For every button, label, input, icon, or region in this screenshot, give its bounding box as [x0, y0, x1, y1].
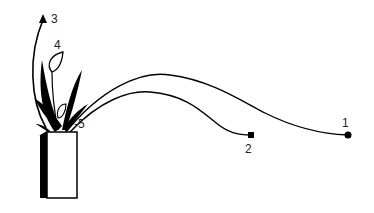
endpoint-2-marker	[248, 132, 254, 138]
trajectory-1	[66, 74, 348, 135]
small-bud	[57, 104, 66, 118]
arrowhead-3	[39, 14, 47, 23]
label-5: -5	[74, 118, 85, 130]
label-3: 3	[51, 13, 58, 25]
endpoint-1-marker	[345, 132, 352, 139]
flower-bud	[49, 52, 63, 72]
flower-pot	[40, 132, 77, 198]
label-1: 1	[342, 117, 349, 129]
label-2: 2	[245, 143, 252, 155]
trajectory-2	[70, 92, 251, 135]
label-4: 4	[54, 39, 61, 51]
plant-diagram	[0, 0, 374, 213]
